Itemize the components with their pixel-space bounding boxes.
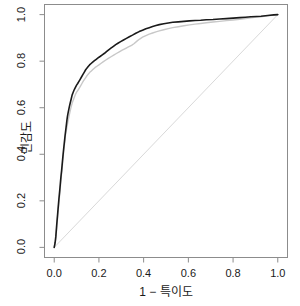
y-tick-label: 0.8 <box>15 48 26 74</box>
y-tick-label: 0.0 <box>15 234 26 260</box>
y-tick-label: 1.0 <box>15 1 26 27</box>
x-tick-label: 0.4 <box>136 268 151 279</box>
plot-canvas <box>0 0 300 306</box>
x-tick-label: 0.0 <box>47 268 62 279</box>
y-tick-label: 0.6 <box>15 94 26 120</box>
x-tick-label: 0.6 <box>181 268 196 279</box>
y-tick-label: 0.2 <box>15 187 26 213</box>
y-axis-title: 민감도 <box>21 121 34 154</box>
roc-plot-figure: 0.00.20.40.60.81.0 0.00.20.40.60.81.0 1 … <box>0 0 300 306</box>
x-tick-label: 0.2 <box>91 268 106 279</box>
x-axis-title: 1 − 특이도 <box>139 286 192 299</box>
x-tick-label: 1.0 <box>270 268 285 279</box>
x-tick-label: 0.8 <box>225 268 240 279</box>
